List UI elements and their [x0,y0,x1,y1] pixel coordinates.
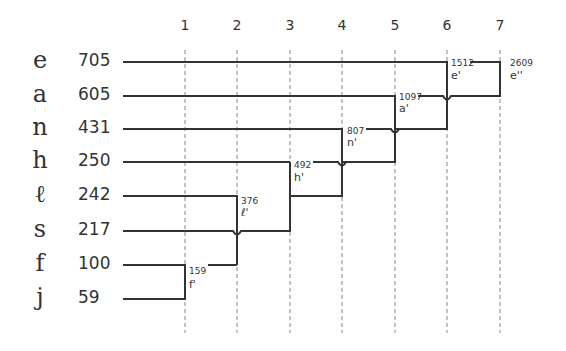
node-name-f-prime: f' [189,279,196,290]
merge-lines [123,62,500,299]
node-value-l-prime: 376 [241,196,258,206]
row-freq-e: 705 [78,50,110,70]
node-value-h-prime: 492 [294,160,311,170]
row-letter-s: s [25,215,55,243]
row-letter-f: f [25,249,55,277]
row-freq-f: 100 [78,253,110,273]
column-label-5: 5 [385,17,405,33]
row-freq-s: 217 [78,219,110,239]
column-label-2: 2 [227,17,247,33]
row-freq-n: 431 [78,117,110,137]
node-value-f-prime: 159 [189,266,206,276]
row-freq-h: 250 [78,150,110,170]
node-value-e-prime: 1512 [451,58,474,68]
row-letter-h: h [25,146,55,174]
node-name-h-prime: h' [294,172,304,183]
row-letter-a: a [25,80,55,108]
node-name-e-prime: e' [451,70,461,81]
column-label-4: 4 [332,17,352,33]
node-value-e-double-prime: 2609 [510,58,533,68]
column-label-7: 7 [490,17,510,33]
row-freq-a: 605 [78,84,110,104]
node-name-l-prime: ℓ' [241,207,249,218]
column-label-3: 3 [280,17,300,33]
node-value-a-prime: 1097 [399,92,422,102]
node-name-a-prime: a' [399,103,409,114]
row-letter-j: j [25,283,55,311]
node-name-n-prime: n' [347,137,357,148]
row-letter-e: e [25,46,55,74]
row-letter-l: ℓ [25,180,55,208]
node-value-n-prime: 807 [347,126,364,136]
node-name-e-double-prime: e'' [510,70,523,81]
row-freq-j: 59 [78,287,100,307]
column-label-6: 6 [437,17,457,33]
row-freq-l: 242 [78,184,110,204]
row-letter-n: n [25,113,55,141]
column-label-1: 1 [175,17,195,33]
